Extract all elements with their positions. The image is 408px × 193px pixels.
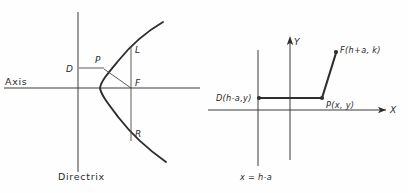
point-marker-f	[334, 50, 338, 54]
figure-canvas: D P F L R Axis Directrix	[0, 0, 408, 193]
label-directrix: Directrix	[58, 171, 105, 182]
label-point-l: L	[135, 45, 140, 55]
label-axis: Axis	[5, 76, 28, 87]
label-point-p: P	[95, 55, 101, 65]
label-point-d-right: D(h-a,y)	[216, 93, 252, 103]
label-point-f-right: F(h+a, k)	[340, 45, 381, 55]
label-point-r: R	[135, 129, 142, 139]
segment-pf	[104, 69, 131, 88]
segment-pf-right	[322, 53, 336, 98]
point-marker-d	[257, 96, 261, 100]
point-marker-p	[320, 96, 324, 100]
label-point-f: F	[135, 78, 141, 88]
parabola-curve	[100, 22, 166, 162]
label-point-d: D	[66, 64, 73, 74]
figure-root: D P F L R Axis Directrix	[0, 0, 408, 193]
label-y-axis: Y	[294, 37, 301, 47]
label-point-p-right: P(x, y)	[326, 100, 354, 110]
right-diagram: D(h-a,y) P(x, y) F(h+a, k) Y X x = h-a	[208, 36, 397, 182]
label-directrix-equation: x = h-a	[239, 172, 272, 182]
left-diagram: D P F L R Axis Directrix	[4, 12, 200, 182]
label-x-axis: X	[389, 105, 397, 115]
